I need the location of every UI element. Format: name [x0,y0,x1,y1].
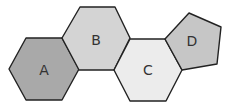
label-c: C [143,62,153,78]
label-a: A [39,62,49,78]
label-d: D [187,33,198,49]
shapes-diagram: A B C D [0,0,230,110]
label-b: B [91,32,101,48]
